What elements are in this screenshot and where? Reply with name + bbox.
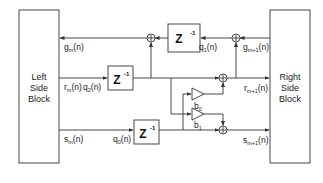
svg-text:Z: Z: [139, 127, 146, 141]
right-side-block: Right Side Block: [270, 10, 310, 163]
wire-tap-to-b1: [171, 78, 191, 114]
left-block-label-1: Left: [31, 72, 47, 82]
svg-text:-1: -1: [150, 125, 156, 131]
delay-block-bottom: Z -1: [134, 120, 159, 144]
label-q1: q1(n): [199, 42, 217, 53]
label-r-m: rm(n): [64, 82, 82, 93]
delay-block-top: Z -1: [168, 24, 200, 52]
left-side-block: Left Side Block: [19, 10, 59, 163]
left-block-label-2: Side: [30, 83, 48, 93]
right-block-label-2: Side: [281, 83, 299, 93]
label-g-m1: gm+1(n): [243, 42, 269, 53]
svg-text:Z: Z: [175, 32, 182, 46]
label-q0: q0(n): [113, 134, 131, 145]
svg-text:-1: -1: [190, 30, 196, 36]
svg-text:Z: Z: [113, 73, 120, 87]
left-block-label-3: Block: [28, 94, 51, 104]
lattice-filter-diagram: Left Side Block Right Side Block Z -1 Z …: [0, 0, 323, 183]
svg-text:-1: -1: [124, 71, 130, 77]
summer-bottom: [219, 126, 227, 134]
summer-top-right: [232, 34, 240, 42]
label-s-m1: sm+1(n): [243, 135, 269, 146]
summer-middle: [219, 74, 227, 82]
wire-tap-to-b0: [183, 94, 191, 130]
summer-top-left: [147, 34, 155, 42]
gain-b0: b0: [192, 83, 223, 113]
label-r-m1: rm+1(n): [244, 83, 268, 94]
svg-text:b1: b1: [194, 120, 202, 131]
label-s-m: sm(n): [64, 134, 83, 145]
gain-b1: b1: [192, 108, 223, 131]
right-block-label-3: Block: [279, 94, 302, 104]
label-g-m: gm(n): [64, 42, 84, 53]
delay-block-middle: Z -1: [108, 66, 133, 90]
right-block-label-1: Right: [279, 72, 301, 82]
label-q2: q2(n): [83, 82, 101, 93]
